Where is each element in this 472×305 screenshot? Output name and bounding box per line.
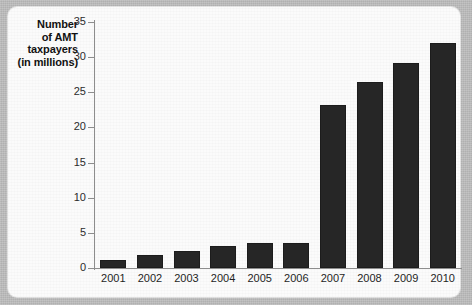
y-axis-tick-label: 35 (58, 16, 86, 27)
y-axis-tick-label-text: 35 (62, 16, 86, 27)
bar-2005 (247, 243, 273, 268)
y-axis-tick-label: 20 (58, 121, 86, 132)
y-axis-tick-label: 10 (58, 192, 86, 203)
x-axis-label-2001: 2001 (95, 272, 132, 285)
y-axis-tick-label: 0 (58, 262, 86, 273)
y-axis-tick-label: 30 (58, 51, 86, 62)
y-axis-tick (88, 127, 95, 128)
y-axis-tick-label: 5 (58, 227, 86, 238)
x-axis-label-2010: 2010 (424, 272, 461, 285)
y-axis-tick-label: 25 (58, 86, 86, 97)
x-axis-label-2002: 2002 (132, 272, 169, 285)
y-axis-tick-label-text: 5 (62, 227, 86, 238)
y-axis-tick (88, 233, 95, 234)
y-axis-tick-label-text: 15 (62, 157, 86, 168)
bar-2004 (210, 246, 236, 268)
x-axis-label-2006: 2006 (278, 272, 315, 285)
y-axis-tick (88, 57, 95, 58)
x-axis-label-2003: 2003 (168, 272, 205, 285)
bar-2006 (283, 243, 309, 268)
x-axis-label-2004: 2004 (205, 272, 242, 285)
bar-2002 (137, 255, 163, 268)
y-axis-tick-label-text: 20 (62, 121, 86, 132)
y-axis-tick-label: 15 (58, 157, 86, 168)
x-axis-label-2009: 2009 (388, 272, 425, 285)
bar-2001 (100, 260, 126, 268)
bar-2007 (320, 105, 346, 268)
y-axis-tick-label-text: 10 (62, 192, 86, 203)
y-axis-tick (88, 268, 95, 269)
y-axis-title-line-2: of AMT (8, 31, 78, 44)
x-axis-label-2008: 2008 (351, 272, 388, 285)
bar-2010 (430, 43, 456, 268)
bar-2008 (357, 82, 383, 268)
y-axis-tick (88, 198, 95, 199)
y-axis-tick (88, 22, 95, 23)
x-axis-label-2007: 2007 (315, 272, 352, 285)
x-axis-line (94, 268, 462, 269)
chart-screenshot: Number of AMT taxpayers (in millions) 05… (0, 0, 472, 305)
bar-2003 (174, 251, 200, 268)
y-axis-tick (88, 163, 95, 164)
y-axis-tick-label-text: 25 (62, 86, 86, 97)
y-axis-tick-label-text: 0 (62, 262, 86, 273)
x-axis-label-2005: 2005 (241, 272, 278, 285)
y-axis-tick (88, 92, 95, 93)
bar-2009 (393, 63, 419, 268)
y-axis-tick-label-text: 30 (62, 51, 86, 62)
